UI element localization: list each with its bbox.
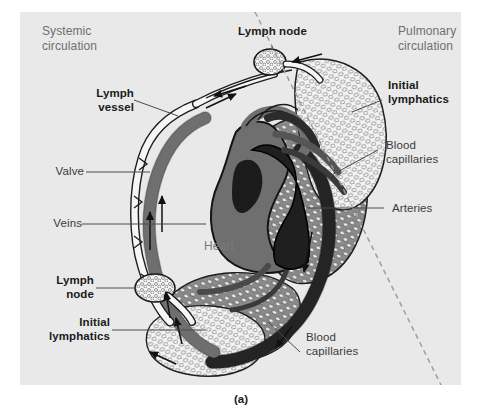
label-lymph-node-top: Lymph node xyxy=(238,24,307,38)
label-lymph-node-left: Lymph node xyxy=(40,273,94,301)
lymph-node-top xyxy=(254,49,286,75)
label-blood-capillaries-bottom: Blood capillaries xyxy=(306,330,358,358)
label-arteries: Arteries xyxy=(392,201,432,215)
label-valve: Valve xyxy=(40,164,84,178)
region-label-systemic: Systemic circulation xyxy=(42,24,97,53)
label-veins: Veins xyxy=(38,216,82,230)
label-lymph-vessel: Lymph vessel xyxy=(58,86,134,114)
label-initial-lymphatics-left: Initial lymphatics xyxy=(32,315,110,343)
label-blood-capillaries-right: Blood capillaries xyxy=(386,138,438,166)
figure-lymphatic-circulation: Systemic circulation Pulmonary circulati… xyxy=(0,0,482,420)
figure-caption: (a) xyxy=(0,393,482,405)
label-heart: Heart xyxy=(204,239,234,254)
label-initial-lymphatics-right: Initial lymphatics xyxy=(388,78,449,106)
region-label-pulmonary: Pulmonary circulation xyxy=(398,24,456,53)
